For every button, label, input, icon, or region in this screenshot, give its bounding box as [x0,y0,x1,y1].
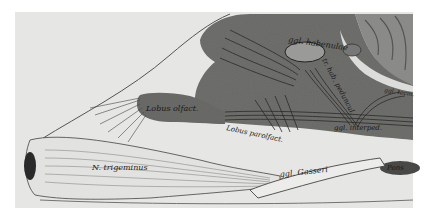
nerve-cross-section [24,152,36,180]
label-n-trigeminus: N. trigeminus [91,163,148,172]
label-lobus-olfact: Lobus olfact. [145,104,198,113]
label-pons: Pons [386,164,404,172]
label-ggl-interped: ggl. interped. [334,124,382,132]
anatomical-figure: ggl. habenulae tr. hab. peduncul. ggl. t… [0,0,427,223]
